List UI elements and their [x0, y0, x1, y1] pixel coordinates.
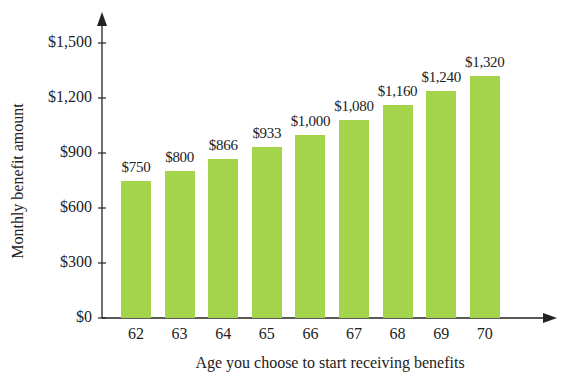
y-axis-arrow-icon — [97, 12, 107, 26]
bar-chart: $0$300$600$900$1,200$1,500$75062$80063$8… — [0, 0, 567, 385]
bar-value-label: $1,240 — [411, 69, 471, 86]
bar-age-62 — [121, 181, 151, 319]
bar-value-label: $1,080 — [324, 98, 384, 115]
y-tick-label: $1,500 — [2, 33, 92, 51]
x-axis-arrow-icon — [543, 313, 557, 323]
x-tick-label: 67 — [334, 325, 374, 343]
bar-age-68 — [383, 105, 413, 318]
x-tick-label: 65 — [247, 325, 287, 343]
bar-value-label: $1,000 — [280, 113, 340, 130]
bar-age-65 — [252, 147, 282, 318]
bar-age-70 — [470, 76, 500, 318]
x-tick-label: 69 — [421, 325, 461, 343]
x-tick-label: 62 — [116, 325, 156, 343]
x-axis-title: Age you choose to start receiving benefi… — [120, 354, 540, 372]
bar-value-label: $1,320 — [455, 54, 515, 71]
bar-age-67 — [339, 120, 369, 318]
x-tick-label: 70 — [465, 325, 505, 343]
x-tick-label: 64 — [203, 325, 243, 343]
bar-age-69 — [426, 91, 456, 318]
bar-value-label: $1,160 — [368, 83, 428, 100]
y-axis-title: Monthly benefit amount — [9, 101, 27, 261]
bar-age-64 — [208, 159, 238, 318]
x-tick-label: 68 — [378, 325, 418, 343]
bar-age-66 — [295, 135, 325, 318]
y-tick-label: $0 — [2, 308, 92, 326]
x-tick-label: 63 — [160, 325, 200, 343]
x-tick-label: 66 — [290, 325, 330, 343]
bar-age-63 — [165, 171, 195, 318]
